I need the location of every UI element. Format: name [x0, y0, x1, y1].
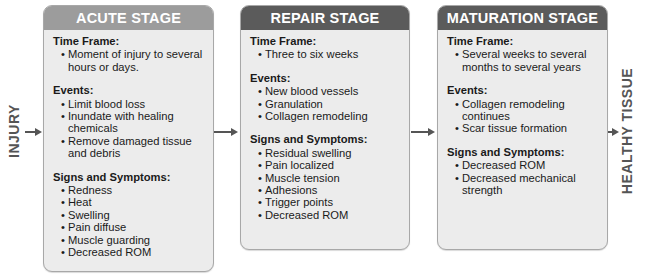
- list-item: Muscle tension: [258, 172, 401, 184]
- list-item: Granulation: [258, 98, 401, 110]
- list-item: Decreased mechanical strength: [455, 172, 599, 197]
- list-item: Pain diffuse: [61, 221, 205, 233]
- section-time-frame: Time Frame: Several weeks to several mon…: [447, 35, 599, 73]
- section-time-frame: Time Frame: Three to six weeks: [250, 35, 401, 61]
- section-events: Events: Limit blood loss Inundate with h…: [53, 84, 205, 159]
- arrow-icon-injury-to-acute: [25, 131, 40, 133]
- healthy-tissue-label: HEALTHY TISSUE: [619, 68, 635, 194]
- list-item: Decreased ROM: [258, 209, 401, 221]
- arrow-icon-repair-to-maturation: [411, 131, 433, 133]
- list-item: Collagen remodeling continues: [455, 98, 599, 123]
- list-item: Three to six weeks: [258, 48, 401, 60]
- list-item: Residual swelling: [258, 147, 401, 159]
- list-item: Redness: [61, 184, 205, 196]
- list-item: Muscle guarding: [61, 234, 205, 246]
- section-signs-symptoms: Signs and Symptoms: Redness Heat Swellin…: [53, 171, 205, 259]
- list-item: Decreased ROM: [61, 246, 205, 258]
- list-item: Swelling: [61, 209, 205, 221]
- list-item: Several weeks to several months to sever…: [455, 48, 599, 73]
- list-item: Scar tissue formation: [455, 122, 599, 134]
- injury-label: INJURY: [6, 104, 22, 158]
- list-item: Pain localized: [258, 159, 401, 171]
- section-signs-symptoms: Signs and Symptoms: Decreased ROM Decrea…: [447, 146, 599, 197]
- arrow-icon-acute-to-repair: [214, 131, 236, 133]
- section-events: Events: New blood vessels Granulation Co…: [250, 72, 401, 123]
- list-item: Heat: [61, 196, 205, 208]
- list-item: Moment of injury to several hours or day…: [61, 48, 205, 73]
- list-item: Decreased ROM: [455, 159, 599, 171]
- stage-box-repair: REPAIR STAGE Time Frame: Three to six we…: [240, 5, 410, 250]
- stage-header-repair: REPAIR STAGE: [241, 6, 409, 30]
- list-item: New blood vessels: [258, 85, 401, 97]
- list-item: Inundate with healing chemicals: [61, 110, 205, 135]
- section-time-frame: Time Frame: Moment of injury to several …: [53, 35, 205, 73]
- arrow-icon-maturation-to-healthy: [608, 131, 617, 133]
- section-signs-symptoms: Signs and Symptoms: Residual swelling Pa…: [250, 133, 401, 221]
- stage-header-acute: ACUTE STAGE: [44, 6, 213, 30]
- stage-header-maturation: MATURATION STAGE: [438, 6, 607, 30]
- list-item: Trigger points: [258, 196, 401, 208]
- stage-box-maturation: MATURATION STAGE Time Frame: Several wee…: [437, 5, 608, 250]
- list-item: Remove damaged tissue and debris: [61, 135, 205, 160]
- list-item: Collagen remodeling: [258, 110, 401, 122]
- list-item: Limit blood loss: [61, 98, 205, 110]
- section-events: Events: Collagen remodeling continues Sc…: [447, 84, 599, 135]
- list-item: Adhesions: [258, 184, 401, 196]
- stage-box-acute: ACUTE STAGE Time Frame: Moment of injury…: [43, 5, 214, 272]
